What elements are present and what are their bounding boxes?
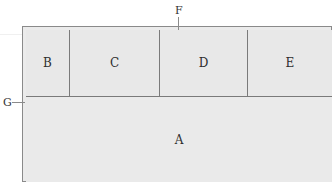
region-d: D (160, 30, 248, 96)
region-e: E (248, 30, 332, 96)
region-d-label: D (199, 56, 209, 70)
region-c: C (70, 30, 160, 96)
region-b-label: B (43, 56, 52, 70)
region-a: A (26, 97, 332, 182)
callout-g-leader-line (12, 102, 25, 103)
callout-g-label: G (3, 97, 12, 108)
top-row: B C D E (26, 30, 332, 97)
callout-f-label: F (175, 5, 183, 16)
callout-f-leader-line (178, 17, 179, 30)
region-a-label: A (175, 133, 184, 147)
region-b: B (26, 30, 70, 96)
region-e-label: E (286, 56, 295, 70)
faint-guide-line (0, 34, 22, 35)
region-c-label: C (110, 56, 119, 70)
